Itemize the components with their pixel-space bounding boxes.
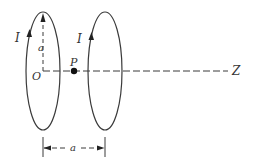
separation-arrow-left-icon	[44, 146, 52, 151]
label-z-axis: Z	[231, 64, 241, 78]
separation-arrow-right-icon	[97, 146, 105, 151]
label-origin: O	[32, 70, 41, 83]
radius-arrow-icon	[41, 13, 46, 22]
label-current-left: I	[14, 31, 20, 45]
current-arrow-right-icon	[89, 32, 95, 40]
label-separation: a	[70, 142, 76, 153]
label-radius: a	[38, 42, 44, 53]
label-current-right: I	[76, 32, 82, 46]
label-point-p: P	[69, 56, 78, 69]
diagram-canvas: I I a O P Z a	[0, 0, 261, 160]
